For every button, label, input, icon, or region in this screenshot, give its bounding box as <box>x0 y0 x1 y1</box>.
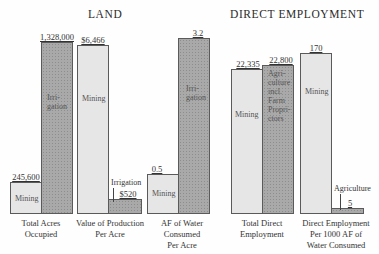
bar-label: Mining <box>15 194 39 203</box>
bar-irrigation: Irri- gation <box>41 42 73 214</box>
bar-label: Mining <box>152 189 176 198</box>
value-label: 0.5 <box>148 164 166 174</box>
bar-label: Mining <box>305 87 329 96</box>
bar-label: Irri- gation <box>186 84 206 102</box>
callout-label: Agriculture <box>334 184 371 193</box>
category-label: Total Acres Occupied <box>4 218 78 240</box>
value-label: 5 <box>346 198 354 208</box>
value-label: 3.2 <box>190 28 206 38</box>
leader-line <box>340 194 341 210</box>
category-label: Value of Production Per Acre <box>72 218 148 240</box>
leader-line <box>113 188 114 202</box>
bar-agriculture: Agri- culture incl. Farm Propri- ctors <box>262 65 294 214</box>
value-label: 22,335 <box>233 59 263 69</box>
value-label: 22,800 <box>266 55 296 65</box>
category-label: AF of Water Consumed Per Acre <box>150 218 214 251</box>
category-label: Direct Employment Per 1000 AF of Water C… <box>296 218 376 251</box>
value-label: $520 <box>117 189 139 199</box>
employment-title: DIRECT EMPLOYMENT <box>230 8 364 20</box>
bar-label: Agri- culture incl. Farm Propri- ctors <box>268 69 291 123</box>
bar-mining: Mining <box>10 182 42 214</box>
bar-mining: Mining <box>147 174 179 214</box>
bar-agriculture <box>331 208 364 214</box>
value-label: 245,600 <box>8 172 44 182</box>
callout-label: Irrigation <box>111 178 141 187</box>
value-label: $6,466 <box>76 35 110 45</box>
land-title: LAND <box>88 8 122 20</box>
bar-label: Mining <box>235 110 259 119</box>
bar-label: Irri- gation <box>47 93 67 111</box>
value-label: 170 <box>308 43 324 53</box>
category-label: Total Direct Employment <box>226 218 298 240</box>
bar-irrigation: Irri- gation <box>178 38 210 214</box>
bar-mining: Mining <box>300 53 332 214</box>
bar-mining: Mining <box>77 45 109 214</box>
value-label: 1,328,000 <box>36 32 78 42</box>
bar-mining: Mining <box>231 69 263 214</box>
bar-label: Mining <box>82 94 106 103</box>
